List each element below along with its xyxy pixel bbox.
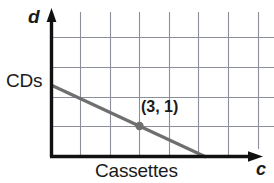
budget-constraint-line <box>51 85 206 157</box>
axes <box>47 8 263 162</box>
graph-figure: CDs Cassettes d c (3, 1) <box>0 0 274 183</box>
vertical-gridlines <box>81 12 259 156</box>
data-point-marker <box>135 122 143 130</box>
coordinate-plane-svg <box>0 0 274 183</box>
x-axis-variable-label: c <box>256 160 266 178</box>
data-point-label: (3, 1) <box>141 99 178 115</box>
y-axis-variable-label: d <box>28 7 40 26</box>
y-axis-label: CDs <box>6 71 42 90</box>
y-axis-arrowhead <box>47 8 57 22</box>
x-axis-label: Cassettes <box>95 161 178 180</box>
